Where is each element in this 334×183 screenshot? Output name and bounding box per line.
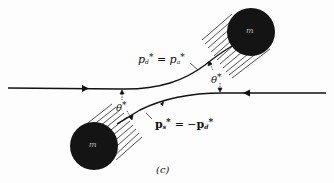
equation-upper-star: *	[149, 52, 154, 62]
equation-lower-lhs: p	[155, 118, 163, 131]
scattering-diagram: m m pd* = pa* ps* = −pd* θ* θ* (c)	[0, 0, 334, 183]
equation-upper-rhs-star: *	[180, 52, 185, 62]
equation-lower-rhs-star: *	[209, 117, 214, 127]
equation-lower: ps* = −pd*	[155, 118, 213, 130]
equation-upper-op: =	[157, 53, 166, 66]
arrow-right-icon	[82, 85, 89, 92]
theta-label-right: θ*	[211, 73, 222, 85]
upper-mass-label: m	[246, 26, 254, 35]
theta-star-left: *	[122, 100, 127, 110]
leader-line-lower	[146, 113, 152, 119]
figure-caption: (c)	[156, 165, 169, 175]
diagram-graphics	[0, 0, 334, 183]
equation-lower-star: *	[166, 117, 171, 127]
equation-upper-lhs: p	[138, 53, 145, 66]
lower-mass-label: m	[89, 140, 97, 149]
equation-lower-op: = −	[175, 118, 197, 131]
theta-star-right: *	[217, 72, 222, 82]
equation-upper: pd* = pa*	[138, 53, 185, 65]
trajectory-incoming-right	[117, 93, 326, 124]
theta-label-left: θ*	[116, 101, 127, 113]
leader-line-upper	[190, 63, 198, 70]
arrow-left-icon	[243, 90, 250, 97]
trajectory-incoming-left	[8, 46, 232, 89]
equation-upper-rhs: p	[170, 53, 177, 66]
